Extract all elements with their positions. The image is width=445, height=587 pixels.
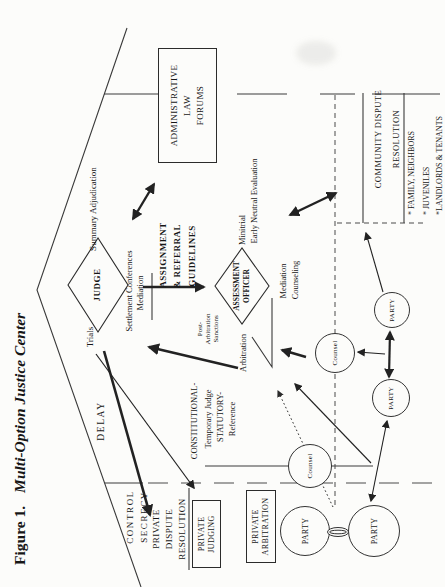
assignment-line: & REFERRAL	[173, 224, 182, 288]
arrow-party-to-community	[366, 233, 383, 292]
diagram-stage: ADMINISTRATIVE LAW FORUMS PRIVATE JUDGIN…	[0, 0, 445, 587]
double-arrow-court-admin-forums	[133, 184, 154, 219]
reference-label: Reference	[228, 402, 237, 436]
community-title-line: RESOLUTION	[392, 110, 401, 168]
private-heading-line: RESOLUTION	[178, 498, 187, 560]
delay-label: DELAY	[97, 401, 107, 440]
mediation-below-label: Mediation	[279, 264, 288, 299]
assessment-officer-line: OFFICER	[243, 269, 251, 303]
community-item: *LANDLORDS & TENANTS	[436, 116, 444, 215]
figure-number: Figure 1.	[11, 506, 29, 565]
community-item: * FAMILY, NEIGHBORS	[408, 131, 416, 215]
constitutional-label: CONSTITUTIONAL-	[190, 383, 199, 460]
counseling-label: Counseling	[291, 261, 300, 300]
settlement-conferences-label: Settlement Conferences	[125, 251, 134, 332]
summary-adjudication-label: Summary Adjudication	[89, 167, 98, 251]
post-arbitration-line: Sanctions	[213, 315, 220, 342]
assignment-line: ASSIGNMENT	[159, 222, 168, 288]
temporary-judge-label: Temporary Judge	[204, 389, 213, 448]
arrow-parties-to-assessment	[295, 384, 371, 463]
community-item: * JUVENILES	[423, 167, 431, 215]
figure-title: Figure 1. Multi-Option Justice Center	[11, 313, 29, 565]
figure-name: Multi-Option Justice Center	[11, 313, 29, 493]
judge-label: JUDGE	[93, 268, 102, 301]
arrow-counsel-to-arbitration	[282, 350, 306, 357]
post-arbitration-line: Arbitration	[205, 313, 212, 344]
arrow-post-arbitration-sanctions	[149, 347, 238, 368]
minitrial-label: Minitrial	[238, 215, 247, 245]
scanned-figure-page: ADMINISTRATIVE LAW FORUMS PRIVATE JUDGIN…	[0, 0, 445, 587]
double-arrow-assessment-community	[290, 193, 336, 215]
diagram-arrows	[0, 0, 445, 587]
statutory-label: STATUTORY-	[216, 392, 225, 442]
double-arrow-party-groups	[371, 421, 387, 501]
arrow-parties-to-counsel	[358, 352, 385, 354]
private-heading-line: DISPUTE	[165, 509, 174, 550]
post-arbitration-line: Post-	[197, 322, 204, 336]
assignment-line: GUIDELINES	[188, 225, 197, 287]
trials-label: Trials	[86, 327, 95, 348]
double-arrow-party-party	[389, 332, 390, 377]
arbitration-label: Arbitration	[239, 334, 248, 372]
control-label: CONTROL	[126, 490, 135, 544]
party-link-inner	[330, 530, 347, 534]
arrow-judge-to-private-judging	[96, 354, 194, 488]
early-neutral-evaluation-label: Early Neutral Evaluation	[250, 159, 259, 244]
secrecy-label: SECRECY	[140, 491, 149, 543]
mediation-label: Mediation	[136, 276, 145, 311]
community-title-line: COMMUNITY DISPUTE	[374, 90, 383, 189]
assessment-officer-line: ASSESSMENT	[233, 261, 241, 311]
private-heading-line: PRIVATE	[152, 509, 161, 548]
